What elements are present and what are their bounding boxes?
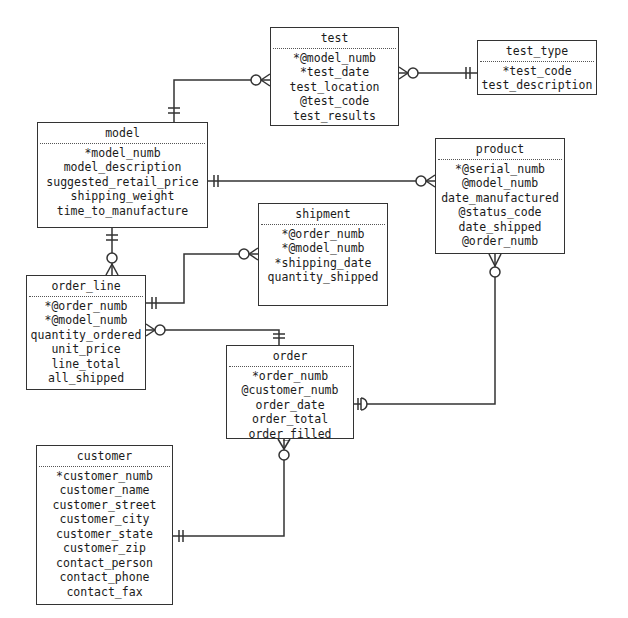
attribute: customer_city <box>37 512 172 527</box>
attribute: *shipping_date <box>259 256 387 271</box>
entity-test-type: test_type *test_code test_description <box>477 40 597 95</box>
attribute: @model_numb <box>436 176 564 191</box>
attribute: customer_zip <box>37 541 172 556</box>
attribute: @test_code <box>271 94 398 109</box>
attribute: *@order_numb <box>259 227 387 242</box>
attribute: order_filled <box>227 427 353 442</box>
attribute: *model_numb <box>38 146 207 161</box>
entity-title: model <box>40 123 205 144</box>
attribute: date_shipped <box>436 220 564 235</box>
attribute: order_date <box>227 398 353 413</box>
attribute: contact_person <box>37 556 172 571</box>
attribute: line_total <box>27 357 145 372</box>
relationship-orderline-shipment <box>146 248 258 309</box>
attribute: *@serial_numb <box>436 162 564 177</box>
entity-title: test <box>273 28 396 49</box>
attribute: shipping_weight <box>38 189 207 204</box>
attribute: contact_phone <box>37 570 172 585</box>
attribute: model_description <box>38 160 207 175</box>
er-diagram: test *@model_numb *test_date test_locati… <box>0 0 628 618</box>
attribute: *customer_numb <box>37 469 172 484</box>
entity-shipment: shipment *@order_numb *@model_numb *ship… <box>258 203 388 306</box>
attribute: quantity_shipped <box>259 270 387 285</box>
attribute: *@order_numb <box>27 299 145 314</box>
attribute: customer_name <box>37 483 172 498</box>
attribute: customer_state <box>37 527 172 542</box>
relationship-test-testtype <box>399 67 477 79</box>
attribute: *test_code <box>478 64 596 79</box>
attribute: @order_numb <box>436 234 564 249</box>
entity-model: model *model_numb model_description sugg… <box>37 122 208 228</box>
attribute: date_manufactured <box>436 191 564 206</box>
entity-title: order_line <box>29 276 143 297</box>
attribute: test_results <box>271 109 398 124</box>
relationship-model-orderline <box>106 228 118 275</box>
attribute: @customer_numb <box>227 383 353 398</box>
entity-title: customer <box>39 446 170 467</box>
attribute: all_shipped <box>27 371 145 386</box>
relationship-customer-order <box>173 439 290 542</box>
attribute: time_to_manufacture <box>38 204 207 219</box>
attribute: customer_street <box>37 498 172 513</box>
entity-product: product *@serial_numb @model_numb date_m… <box>435 138 565 254</box>
attribute: *test_date <box>271 65 398 80</box>
attribute: quantity_ordered <box>27 328 145 343</box>
entity-customer: customer *customer_numb customer_name cu… <box>36 445 173 605</box>
attribute: contact_fax <box>37 585 172 600</box>
attribute: *order_numb <box>227 369 353 384</box>
entity-title: product <box>438 139 562 160</box>
entity-test: test *@model_numb *test_date test_locati… <box>270 27 399 126</box>
attribute: *@model_numb <box>27 313 145 328</box>
entity-title: test_type <box>480 41 594 62</box>
attribute: unit_price <box>27 342 145 357</box>
entity-title: shipment <box>261 204 385 225</box>
relationship-model-test <box>168 74 270 122</box>
relationship-model-product <box>208 175 435 187</box>
attribute: suggested_retail_price <box>38 175 207 190</box>
attribute: order_total <box>227 412 353 427</box>
entity-order-line: order_line *@order_numb *@model_numb qua… <box>26 275 146 390</box>
entity-title: order <box>229 346 351 367</box>
attribute: @status_code <box>436 205 564 220</box>
attribute: *@model_numb <box>259 241 387 256</box>
attribute: test_location <box>271 80 398 95</box>
entity-order: order *order_numb @customer_numb order_d… <box>226 345 354 439</box>
relationship-order-orderline <box>146 324 285 345</box>
attribute: *@model_numb <box>271 51 398 66</box>
attribute: test_description <box>478 78 596 93</box>
